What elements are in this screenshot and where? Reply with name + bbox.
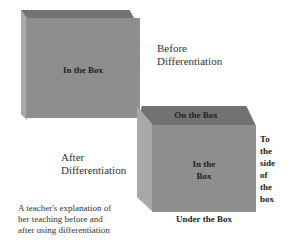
side-of-box-label: To the side of the box — [260, 133, 275, 205]
before-caption-line2: Differentiation — [157, 55, 222, 68]
side-label-word: side — [260, 157, 275, 169]
after-box-top-label: On the Box — [140, 110, 252, 120]
after-caption: After Differentiation — [61, 151, 126, 177]
description-line3: after using differentiation — [18, 225, 111, 236]
description-line2: her teaching before and — [18, 214, 111, 225]
figure-description: A teacher's explanation of her teaching … — [18, 203, 111, 236]
after-box-front-label: In the Box — [152, 158, 256, 182]
before-box-label: In the Box — [26, 65, 140, 75]
after-box-front-label-line1: In the — [152, 158, 256, 170]
after-caption-line1: After — [61, 151, 126, 164]
side-label-word: the — [260, 181, 275, 193]
before-caption-line1: Before — [157, 42, 222, 55]
description-line1: A teacher's explanation of — [18, 203, 111, 214]
before-caption: Before Differentiation — [157, 42, 222, 68]
side-label-word: To — [260, 133, 275, 145]
side-label-word: the — [260, 145, 275, 157]
before-box-top-face — [21, 10, 134, 18]
side-label-word: of — [260, 169, 275, 181]
after-box-front-label-line2: Box — [152, 170, 256, 182]
after-caption-line2: Differentiation — [61, 164, 126, 177]
under-box-label: Under the Box — [152, 214, 256, 224]
side-label-word: box — [260, 193, 275, 205]
